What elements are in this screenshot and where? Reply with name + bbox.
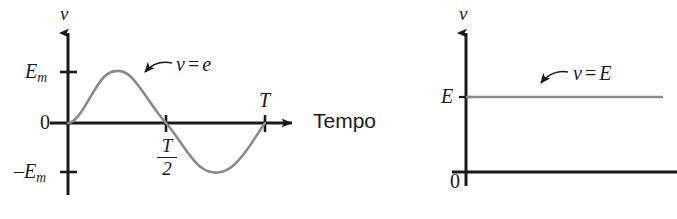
- right-plot-group: [452, 33, 677, 186]
- left-origin-label: 0: [40, 112, 50, 132]
- left-ytick-label-em-positive: Em: [25, 61, 47, 84]
- left-annotation-value: e: [202, 53, 211, 75]
- em-negative-subscript: m: [36, 170, 46, 185]
- figure-root: v Em 0 –Em T 2 T v=e Tempo v E 0 v=E: [0, 0, 677, 219]
- left-xtick-label-half-period: T 2: [157, 136, 177, 179]
- em-positive-base: E: [25, 60, 37, 82]
- left-annotation-label: v=e: [176, 54, 211, 74]
- half-period-denominator: 2: [157, 159, 177, 179]
- right-ytick-label-E: E: [441, 86, 453, 106]
- left-annotation-leader: [145, 62, 172, 72]
- left-xtick-label-full-period: T: [259, 90, 270, 110]
- right-annotation-leader: [541, 71, 568, 83]
- right-origin-label: 0: [450, 171, 460, 191]
- right-annotation-var: v: [573, 62, 582, 84]
- half-period-numerator: T: [157, 136, 177, 156]
- right-annotation-equals: =: [582, 62, 599, 84]
- left-annotation-var: v: [176, 53, 185, 75]
- em-negative-base: –E: [14, 160, 36, 182]
- em-positive-subscript: m: [37, 70, 47, 85]
- right-y-axis-label: v: [459, 4, 467, 23]
- right-annotation-value: E: [599, 62, 611, 84]
- right-annotation-label: v=E: [573, 63, 611, 83]
- left-x-axis-label: Tempo: [313, 110, 376, 131]
- left-y-axis-label: v: [60, 4, 68, 23]
- left-ytick-label-em-negative: –Em: [14, 161, 46, 184]
- left-annotation-equals: =: [185, 53, 202, 75]
